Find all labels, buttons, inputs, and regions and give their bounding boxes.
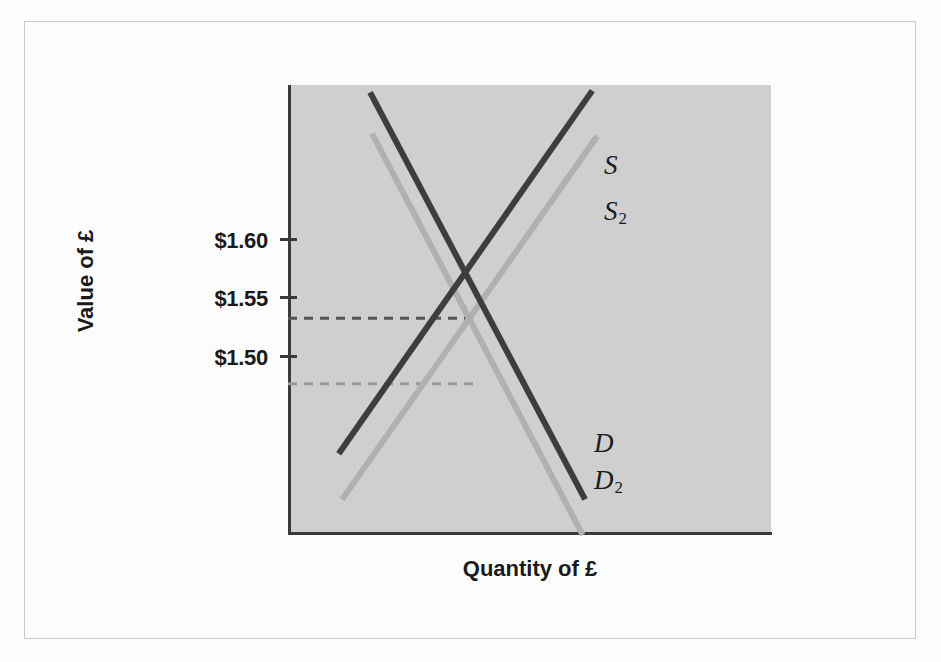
y-axis-line <box>288 85 291 535</box>
curve-label-d2: D2 <box>594 467 623 494</box>
curve-label-d: D <box>594 430 614 457</box>
y-axis-title: Value of £ <box>73 151 99 411</box>
curve-label-s2-base: S <box>604 196 618 226</box>
curve-label-s2-subscript: 2 <box>618 209 628 228</box>
y-tick-label-160: $1.60 <box>150 228 268 254</box>
curve-label-s2: S2 <box>604 198 627 225</box>
y-tick-label-155: $1.55 <box>150 286 268 312</box>
x-axis-title: Quantity of £ <box>288 556 772 582</box>
curve-label-d2-subscript: 2 <box>614 478 624 497</box>
figure-container: $1.60 $1.55 $1.50 Value of £ Quantity of… <box>0 0 941 662</box>
curve-label-d2-base: D <box>594 465 614 495</box>
plot-area <box>288 85 771 534</box>
curve-label-s: S <box>604 152 618 179</box>
y-tick-label-150: $1.50 <box>150 345 268 371</box>
y-tick-155 <box>280 296 297 299</box>
y-tick-160 <box>280 238 297 241</box>
x-axis-line <box>288 532 772 535</box>
y-tick-150 <box>280 355 297 358</box>
